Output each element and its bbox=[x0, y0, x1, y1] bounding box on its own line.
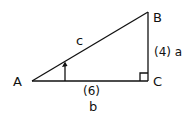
side-label-c: c bbox=[76, 33, 83, 48]
right-angle-marker bbox=[140, 73, 148, 81]
vertex-label-b: B bbox=[153, 10, 162, 25]
vertex-label-c: C bbox=[153, 74, 162, 89]
side-c-hypotenuse bbox=[32, 12, 148, 81]
vertex-label-a: A bbox=[13, 74, 22, 89]
right-triangle-diagram: A B C c (4) a (6) b bbox=[0, 0, 192, 116]
triangle bbox=[32, 12, 148, 81]
side-label-b: b bbox=[89, 99, 97, 114]
side-label-a: (4) a bbox=[154, 45, 182, 59]
side-value-b: (6) bbox=[83, 84, 100, 98]
